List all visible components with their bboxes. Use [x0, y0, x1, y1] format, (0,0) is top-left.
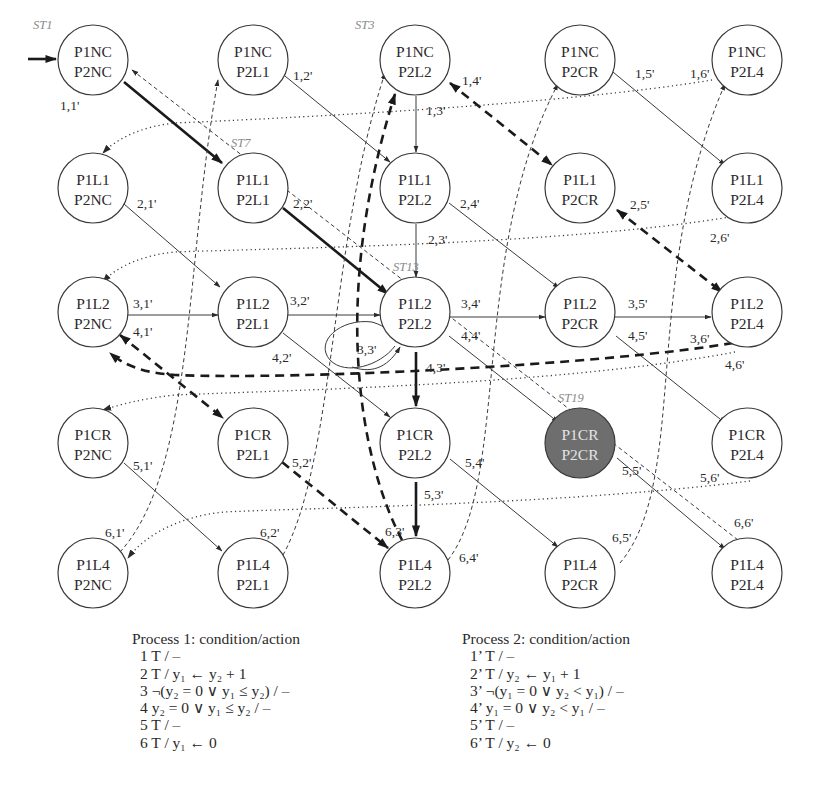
state-process2-label: P2L1	[236, 63, 270, 80]
state-circle	[58, 408, 128, 478]
transition-label: 1,6'	[690, 66, 709, 81]
transition-label: 2,1'	[137, 196, 156, 211]
state-node: P1CRP2NC	[58, 408, 128, 478]
legend-process-1-row: 4 y₂ = 0 ∨ y₁ ≤ y₂ / –	[140, 699, 300, 716]
transition-label: 5,2'	[292, 455, 311, 470]
state-process1-label: P1L2	[236, 295, 270, 312]
state-process1-label: P1NC	[396, 43, 434, 60]
transition-label: 1,1'	[60, 98, 79, 113]
state-circle	[380, 277, 450, 347]
state-node: P1L2P2L4	[712, 277, 782, 347]
state-circle	[712, 408, 782, 478]
state-node: P1L4P2L4	[712, 538, 782, 608]
state-circle	[218, 25, 288, 95]
state-process1-label: P1L4	[236, 556, 270, 573]
transition-label: 3,5'	[628, 296, 647, 311]
state-id-label: ST3	[355, 18, 374, 32]
transition-label: 6,3'	[385, 524, 404, 539]
state-node: P1L2P2L1	[218, 277, 288, 347]
state-process2-label: P2L2	[398, 446, 432, 463]
state-process1-label: P1L1	[76, 171, 110, 188]
state-id-label: ST7	[231, 136, 251, 150]
state-process1-label: P1L4	[398, 556, 432, 573]
transition-label: 3,2'	[290, 293, 309, 308]
state-node: P1L2P2L2ST13	[380, 260, 450, 347]
edge-2-5-dashed	[617, 210, 722, 292]
transition-label: 5,5'	[622, 463, 641, 478]
edge-3-6-dashed	[110, 343, 733, 376]
transition-label: 6,6'	[734, 515, 753, 530]
transition-label: 3,1'	[133, 296, 152, 311]
transition-label: 2,3'	[428, 232, 447, 247]
state-process2-label: P2L2	[398, 63, 432, 80]
edge-4-6-dotted	[103, 352, 735, 410]
transition-label: 4,6'	[725, 357, 744, 372]
edge-1-5	[613, 72, 725, 165]
edge-4-5	[616, 336, 725, 423]
state-process1-label: P1L2	[730, 295, 764, 312]
legend-process-1: Process 1: condition/action 1 T / – 2 T …	[132, 630, 300, 751]
state-circle	[545, 277, 615, 347]
state-circle	[545, 538, 615, 608]
state-circle	[58, 277, 128, 347]
state-process1-label: P1L1	[730, 171, 764, 188]
transition-label: 2,2'	[293, 196, 312, 211]
transition-label: 6,1'	[105, 525, 124, 540]
transition-label: 2,4'	[460, 196, 479, 211]
state-process2-label: P2CR	[561, 63, 599, 80]
transition-label: 4,4'	[461, 328, 480, 343]
transition-label: 2,5'	[630, 197, 649, 212]
state-circle	[545, 25, 615, 95]
legend-process-2: Process 2: condition/action 1’ T / – 2’ …	[462, 630, 630, 751]
state-process1-label: P1NC	[561, 43, 599, 60]
state-circle	[712, 25, 782, 95]
legend-process-2-row: 6’ T / y₂ ← 0	[470, 734, 630, 751]
state-process1-label: P1L2	[563, 295, 597, 312]
state-circle	[380, 538, 450, 608]
state-process2-label: P2NC	[74, 63, 112, 80]
transition-label: 6,5'	[612, 530, 631, 545]
transition-label: 2,6'	[710, 230, 729, 245]
state-node: P1L4P2L1	[218, 538, 288, 608]
state-process2-label: P2NC	[74, 191, 112, 208]
state-process2-label: P2L4	[730, 191, 764, 208]
state-process2-label: P2L1	[236, 446, 270, 463]
transition-label: 1,5'	[635, 66, 654, 81]
transition-label: 6,2'	[260, 525, 279, 540]
transition-label: 5,4'	[465, 455, 484, 470]
edge-5-4	[450, 459, 558, 547]
state-node: P1NCP2L2ST3	[355, 18, 450, 95]
state-process2-label: P2L2	[398, 191, 432, 208]
state-id-label: ST19	[558, 391, 584, 405]
transition-label: 3,4'	[461, 296, 480, 311]
state-node: P1CRP2L4	[712, 408, 782, 478]
state-process1-label: P1L1	[398, 171, 432, 188]
state-process2-label: P2L2	[398, 315, 432, 332]
state-node: P1L4P2L2	[380, 538, 450, 608]
state-process2-label: P2L1	[236, 315, 270, 332]
transition-label: 4,2'	[272, 350, 291, 365]
edge-6-5-dashed	[620, 84, 725, 563]
state-node: P1NCP2NCST1	[33, 18, 128, 95]
state-process2-label: P2NC	[74, 446, 112, 463]
state-process1-label: P1CR	[396, 426, 434, 443]
state-process1-label: P1NC	[728, 43, 766, 60]
legend-process-1-title: Process 1: condition/action	[132, 630, 300, 647]
state-process2-label: P2L4	[730, 63, 764, 80]
state-node: P1L4P2NC	[58, 538, 128, 608]
state-node: P1L2P2CR	[545, 277, 615, 347]
state-circle	[380, 25, 450, 95]
state-circle	[380, 153, 450, 223]
state-node: P1NCP2L4	[712, 25, 782, 95]
state-process1-label: P1CR	[561, 426, 599, 443]
state-process1-label: P1NC	[74, 43, 112, 60]
legend-process-1-row: 6 T / y₁ ← 0	[140, 734, 300, 751]
state-circle	[545, 153, 615, 223]
state-process1-label: P1CR	[728, 426, 766, 443]
state-circle	[380, 408, 450, 478]
state-circle	[218, 153, 288, 223]
edge-6-4-dashed	[448, 84, 558, 560]
state-node: P1CRP2L2	[380, 408, 450, 478]
transition-label: 5,6'	[700, 470, 719, 485]
edge-2-4	[449, 203, 559, 288]
